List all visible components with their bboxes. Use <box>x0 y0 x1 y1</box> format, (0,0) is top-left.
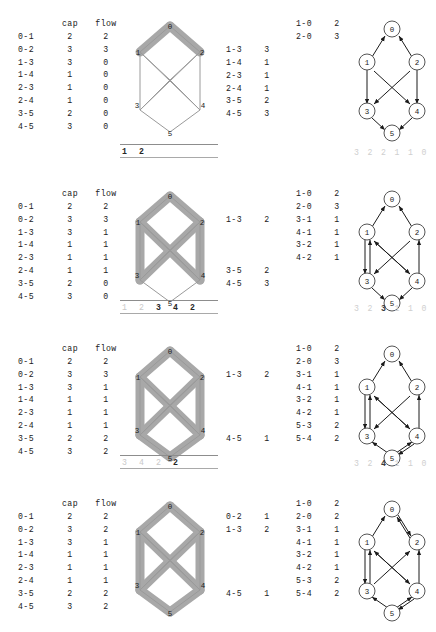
svg-text:5: 5 <box>390 130 395 138</box>
cell-edge: 0-2 <box>18 44 54 57</box>
cell-cap: 1 <box>54 82 86 95</box>
cell-flow: 2 <box>86 524 126 537</box>
flow-network-diagram: 0 1 2 3 4 5 <box>124 343 216 465</box>
queue-cell: 4 <box>173 303 190 312</box>
cell-cap: 1 <box>54 562 86 575</box>
cell-flow: 2 <box>86 511 126 524</box>
cell-edge: 1-0 <box>296 498 326 511</box>
svg-text:0: 0 <box>390 196 395 204</box>
caption-number: 1 <box>391 148 405 157</box>
queue-cells: 3 4 2 2 <box>120 456 218 468</box>
svg-text:2: 2 <box>415 384 420 392</box>
svg-text:2: 2 <box>415 59 420 67</box>
svg-text:1: 1 <box>365 59 370 67</box>
cell-value: 2 <box>326 420 348 433</box>
cell-edge: 1-3 <box>226 524 256 537</box>
table-row: 2-411 <box>18 420 126 433</box>
svg-text:3: 3 <box>135 272 140 280</box>
caption-number: 1 <box>391 304 405 313</box>
cell-edge: 1-3 <box>18 227 54 240</box>
table-row: 2-311 <box>18 407 126 420</box>
table-row: 2-411 <box>18 265 126 278</box>
residual-table-forward: 0-21 1-32 4-51 <box>226 511 278 601</box>
table-row: 4-532 <box>18 601 126 614</box>
cell-cap: 3 <box>54 382 86 395</box>
cell-edge: 1-3 <box>226 369 256 382</box>
residual-caption-numbers: 3 2 3 1 1 0 <box>350 304 431 313</box>
residual-table-forward: 1-32 3-52 4-53 <box>226 214 278 291</box>
svg-text:1: 1 <box>365 229 370 237</box>
cell-value: 2 <box>256 369 278 382</box>
cell-edge: 2-3 <box>18 252 54 265</box>
svg-text:4: 4 <box>415 433 420 441</box>
cell-edge: 5-4 <box>296 588 326 601</box>
svg-text:1: 1 <box>365 384 370 392</box>
cell-flow: 2 <box>86 201 126 214</box>
queue-divider-bottom <box>120 468 218 469</box>
cell-value: 1 <box>326 524 348 537</box>
cap-flow-table: cap flow 0-122 0-232 1-331 1-411 2-311 2… <box>18 498 126 614</box>
caption-number: 1 <box>404 459 418 468</box>
cell-edge: 4-5 <box>18 446 54 459</box>
cell-flow: 0 <box>86 69 126 82</box>
svg-text:3: 3 <box>135 427 140 435</box>
cell-edge: 1-4 <box>18 69 54 82</box>
cell-value: 1 <box>326 562 348 575</box>
cap-flow-table: cap flow 0-122 0-233 1-331 1-411 2-311 2… <box>18 343 126 459</box>
cell-flow: 1 <box>86 394 126 407</box>
svg-text:0: 0 <box>390 351 395 359</box>
col-header-cap: cap <box>54 188 86 201</box>
caption-number: 2 <box>364 304 378 313</box>
residual-table-backward: 1-02 2-03 3-11 4-11 3-21 4-21 <box>296 188 348 265</box>
col-header-edge <box>18 18 54 31</box>
cell-cap: 3 <box>54 369 86 382</box>
cell-value: 2 <box>256 214 278 227</box>
cell-edge: 3-1 <box>296 524 326 537</box>
cell-value: 1 <box>326 549 348 562</box>
table-row: 3-520 <box>18 278 126 291</box>
flow-edges-highlight <box>140 196 200 280</box>
cell-value: 2 <box>326 343 348 356</box>
table-row: 1-330 <box>18 57 126 70</box>
cell-value: 2 <box>256 95 278 108</box>
cell-value: 1 <box>256 57 278 70</box>
svg-text:2: 2 <box>200 219 205 227</box>
cell-edge: 3-5 <box>226 265 256 278</box>
cell-edge: 1-4 <box>18 549 54 562</box>
cell-edge: 1-4 <box>18 394 54 407</box>
cell-value: 1 <box>326 369 348 382</box>
cell-edge: 3-5 <box>18 433 54 446</box>
cell-value: 2 <box>256 265 278 278</box>
caption-number: 3 <box>377 304 391 313</box>
cell-edge: 2-3 <box>18 562 54 575</box>
col-header-edge <box>18 343 54 356</box>
residual-nodes <box>359 191 425 311</box>
svg-text:4: 4 <box>415 588 420 596</box>
cell-value: 1 <box>256 511 278 524</box>
cell-flow: 3 <box>86 369 126 382</box>
svg-text:2: 2 <box>200 374 205 382</box>
cell-edge: 2-0 <box>296 201 326 214</box>
flow-network-diagram: 0 1 2 3 4 5 <box>124 188 216 310</box>
cell-cap: 2 <box>54 588 86 601</box>
cell-edge: 4-1 <box>296 227 326 240</box>
table-row: 2-411 <box>18 575 126 588</box>
table-row: 2-311 <box>18 252 126 265</box>
queue-bar: 1 2 <box>120 144 218 158</box>
col-header-cap: cap <box>54 498 86 511</box>
table-row: 0-122 <box>18 201 126 214</box>
cell-value: 2 <box>326 588 348 601</box>
cell-value: 3 <box>326 356 348 369</box>
cell-edge: 2-3 <box>226 70 256 83</box>
cell-edge: 3-5 <box>18 108 54 121</box>
col-header-cap: cap <box>54 18 86 31</box>
svg-text:3: 3 <box>365 588 370 596</box>
queue-cell: 3 <box>122 458 139 467</box>
cell-flow: 2 <box>86 356 126 369</box>
residual-table-backward: 1-02 2-03 <box>296 18 348 44</box>
cell-flow: 2 <box>86 588 126 601</box>
queue-cells: 1 2 <box>120 145 218 157</box>
svg-text:5: 5 <box>168 130 173 138</box>
table-row: 0-233 <box>18 369 126 382</box>
cell-cap: 2 <box>54 433 86 446</box>
